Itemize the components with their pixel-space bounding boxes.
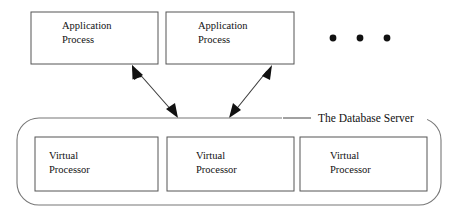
diagram-canvas: Application Process Application Process [0, 0, 458, 214]
virtual-processor-1-label-line1: Virtual [49, 150, 78, 161]
ellipsis-dots [330, 35, 391, 42]
virtual-processor-2-label-line1: Virtual [196, 150, 225, 161]
database-server-label: The Database Server [318, 112, 414, 124]
application-process-1-label-line2: Process [62, 34, 94, 45]
virtual-processor-3[interactable]: Virtual Processor [300, 137, 427, 191]
virtual-processor-3-label-line2: Processor [330, 164, 371, 175]
connection-ap2-arrowhead-top [262, 65, 272, 80]
ellipsis-dot-1 [330, 35, 337, 42]
application-process-1[interactable]: Application Process [31, 12, 158, 64]
ellipsis-dot-2 [357, 35, 364, 42]
connection-ap2-line [234, 71, 267, 112]
architecture-diagram: Application Process Application Process [0, 0, 458, 214]
virtual-processor-1-label-line2: Processor [49, 164, 90, 175]
virtual-processor-3-label-line1: Virtual [330, 150, 359, 161]
connection-ap1-line [137, 71, 173, 112]
application-process-2-label-line1: Application [198, 20, 248, 31]
virtual-processor-1[interactable]: Virtual Processor [35, 137, 158, 191]
application-process-2-label-line2: Process [198, 34, 230, 45]
application-process-1-label-line1: Application [62, 20, 112, 31]
virtual-processor-2[interactable]: Virtual Processor [167, 137, 294, 191]
connection-ap2-to-server [229, 65, 272, 118]
virtual-processor-2-label-line2: Processor [196, 164, 237, 175]
connection-ap1-to-server [132, 65, 178, 118]
ellipsis-dot-3 [384, 35, 391, 42]
application-process-2[interactable]: Application Process [166, 12, 294, 64]
